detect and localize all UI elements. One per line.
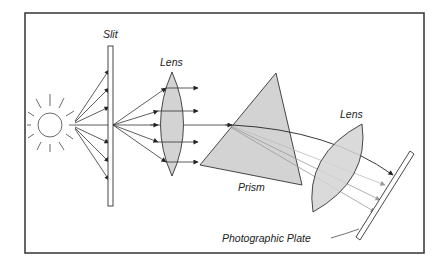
focusing-lens xyxy=(312,124,363,212)
lens1-label: Lens xyxy=(160,56,184,68)
slit-label: Slit xyxy=(103,28,119,40)
slit xyxy=(108,46,113,206)
sun-icon xyxy=(27,94,75,152)
spectrometer-diagram: Slit Lens Prism Lens Photographic Plate xyxy=(0,0,442,264)
prism-label: Prism xyxy=(238,181,265,193)
diagram-frame xyxy=(25,13,424,253)
lens2-label: Lens xyxy=(340,108,364,120)
photographic-plate xyxy=(356,151,414,240)
prism xyxy=(200,73,302,185)
plate-label: Photographic Plate xyxy=(222,232,311,244)
plate-leader-line xyxy=(331,229,359,238)
